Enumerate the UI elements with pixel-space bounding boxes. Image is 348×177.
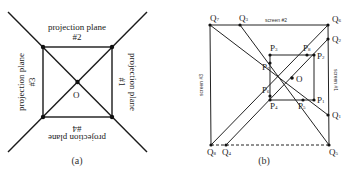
center-label: O (73, 90, 80, 100)
plane-left-label: projection plane (16, 53, 26, 111)
label-p5: P5 (298, 101, 306, 111)
caption-a: (a) (71, 155, 82, 167)
screen-left-line (210, 25, 211, 145)
label-q5: Q5 (329, 147, 339, 157)
center-point (290, 76, 294, 80)
screen-top-label: screen #2 (265, 17, 287, 23)
corner-point (110, 115, 114, 119)
panel-b: O Q7 Q3 Q6 Q2 Q1 Q5 Q8 Q4 P3 P8 P2 P7 P6… (198, 13, 342, 167)
label-q2: Q2 (332, 34, 342, 44)
screen-right-line (328, 25, 329, 145)
corner-point (41, 45, 45, 49)
label-p3: P3 (270, 43, 278, 53)
plane-top-label: projection plane (48, 22, 106, 32)
label-q7: Q7 (210, 13, 220, 23)
figure: O projection plane #2 projection plane #… (0, 0, 348, 177)
label-p2: P2 (317, 51, 325, 61)
plane-bottom-number: #4 (72, 124, 82, 134)
screen-left-label: screen #3 (198, 74, 204, 96)
corner-point (41, 115, 45, 119)
plane-left-number: #3 (27, 77, 37, 87)
center-point (75, 80, 79, 84)
label-q8: Q8 (207, 147, 217, 157)
label-p1: P1 (317, 95, 325, 105)
plane-right-label: projection plane (128, 53, 138, 111)
ray-q3-q5 (240, 25, 329, 145)
panel-a: O projection plane #2 projection plane #… (8, 12, 147, 167)
label-q4: Q4 (222, 147, 232, 157)
caption-b: (b) (258, 155, 270, 167)
label-p4: P4 (270, 101, 278, 111)
label-q6: Q6 (332, 14, 342, 24)
plane-top-number: #2 (73, 32, 82, 42)
center-label: O (296, 74, 303, 84)
plane-right-number: #1 (117, 78, 127, 87)
label-q3: Q3 (239, 13, 249, 23)
screen-right-label: screen #1 (333, 69, 339, 91)
label-p6: P6 (262, 85, 270, 95)
label-p8: P8 (303, 43, 311, 53)
corner-point (110, 45, 114, 49)
label-q1: Q1 (332, 110, 342, 120)
